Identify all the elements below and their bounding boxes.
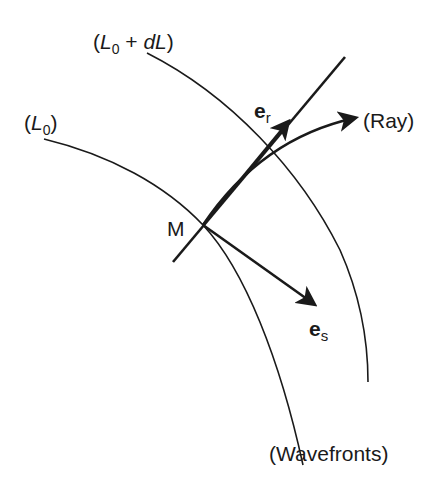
label-er: er (254, 99, 271, 126)
label-es: es (309, 317, 328, 344)
label-l0: (L0) (24, 111, 57, 138)
wavefront-ray-diagram: (L0 + dL) (L0) M (Ray) er es (Wavefronts… (0, 0, 440, 485)
label-ray: (Ray) (363, 109, 414, 132)
es-arrow (203, 225, 314, 304)
tangent-line (173, 57, 345, 262)
label-m: M (167, 217, 185, 240)
label-wavefronts: (Wavefronts) (269, 442, 388, 465)
label-l0-dl: (L0 + dL) (93, 30, 174, 57)
wavefront-l0-curve (44, 139, 303, 465)
